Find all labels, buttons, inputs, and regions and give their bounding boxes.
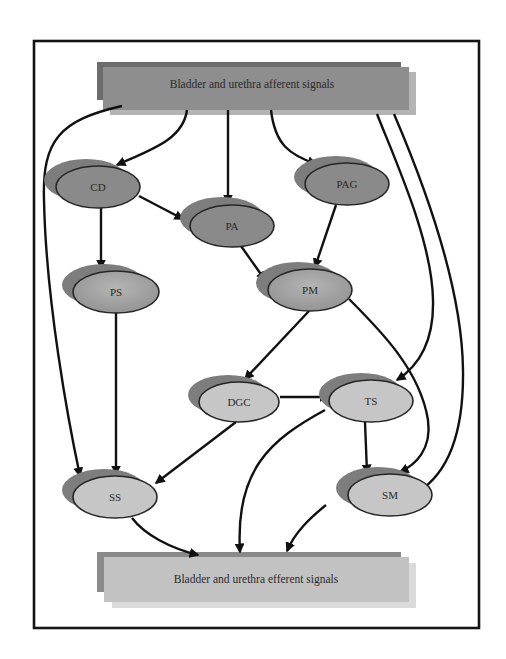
edge-sm-to-efferent <box>287 505 326 551</box>
node-ss: SS <box>62 469 157 518</box>
node-label-ts: TS <box>365 395 378 407</box>
node-dgc: DGC <box>188 375 279 422</box>
edge-afferent-to-pag <box>271 110 316 164</box>
edge-ss-to-efferent <box>132 518 198 555</box>
edge-ts-to-efferent <box>240 410 325 552</box>
edge-pag-to-pm <box>315 205 336 267</box>
node-ts: TS <box>319 373 413 422</box>
node-sm: SM <box>336 467 432 516</box>
afferent-signals-box: Bladder and urethra afferent signals <box>97 62 416 115</box>
node-label-pm: PM <box>302 284 318 296</box>
efferent-signals-box: Bladder and urethra efferent signals <box>97 552 416 608</box>
node-pa: PA <box>180 197 274 247</box>
node-label-ps: PS <box>110 286 122 298</box>
efferent-signals-label: Bladder and urethra efferent signals <box>174 573 339 586</box>
node-label-pag: PAG <box>337 178 358 190</box>
node-label-ss: SS <box>109 491 121 503</box>
node-label-cd: CD <box>90 181 105 193</box>
node-label-sm: SM <box>382 489 398 501</box>
diagram-frame <box>34 41 479 628</box>
node-label-pa: PA <box>225 220 238 232</box>
edge-afferent-to-ts <box>377 114 433 380</box>
edge-dgc-to-ss <box>156 422 236 483</box>
edge-cd-to-pa <box>139 196 183 219</box>
node-ps: PS <box>62 264 159 313</box>
diagram-canvas: Bladder and urethra afferent signals Bla… <box>0 0 506 659</box>
node-cd: CD <box>44 159 140 208</box>
edge-pm-to-dgc <box>245 311 309 379</box>
edge-ts-to-sm <box>365 422 367 473</box>
node-pm: PM <box>256 262 352 311</box>
node-pag: PAG <box>294 156 389 205</box>
edge-afferent-to-cd <box>117 110 187 165</box>
node-label-dgc: DGC <box>227 396 250 408</box>
afferent-signals-label: Bladder and urethra afferent signals <box>170 78 335 91</box>
